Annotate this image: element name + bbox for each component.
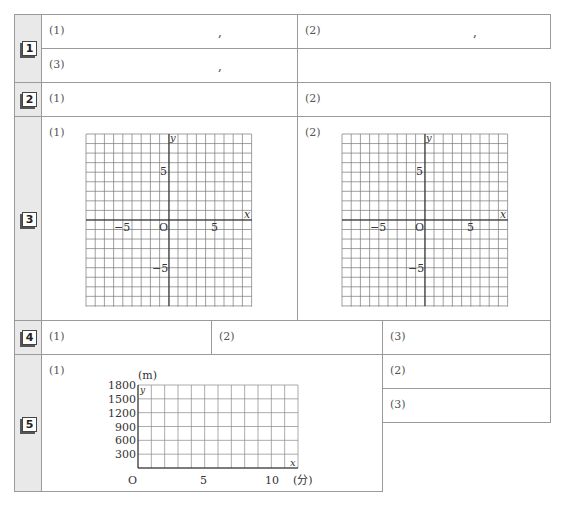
problem-2-badge: 2 [22,92,37,107]
part-label: (2) [305,24,321,37]
answer-1-2[interactable]: (2) , [297,14,551,49]
part-label: (1) [49,126,65,139]
y-tick-label: 600 [115,434,136,447]
x-axis-label: x [500,208,507,221]
tick-y-neg5: −5 [152,262,168,275]
x-axis-label: x [290,457,296,468]
part-label: (2) [390,364,406,377]
tick-y-neg5: −5 [408,262,424,275]
y-tick-label: 1200 [108,407,136,420]
x-tick-5: 5 [200,474,207,487]
answer-2-2[interactable]: (2) [297,82,551,117]
part-label: (1) [49,24,65,37]
part-label: (3) [49,58,65,71]
tick-x-neg5: −5 [114,221,130,234]
x-unit-label: (分) [293,474,313,487]
part-label: (1) [49,364,65,377]
empty-space-1 [297,48,551,83]
y-tick-label: 900 [115,421,136,434]
origin-label: O [128,474,137,487]
answer-3-2[interactable]: (2) y x O −5 5 5 −5 [297,116,551,321]
origin-label: O [415,221,424,234]
problem-5-badge: 5 [22,417,37,432]
y-axis-label: y [425,132,432,143]
separator-comma: , [218,59,222,73]
answer-1-1[interactable]: (1) , [41,14,298,49]
tick-x-pos5: 5 [467,221,474,234]
separator-comma: , [473,25,477,39]
origin-label: O [159,221,168,234]
part-label: (2) [219,330,235,343]
part-label: (3) [390,330,406,343]
tick-y-pos5: 5 [160,165,167,178]
answer-4-1[interactable]: (1) [41,320,212,355]
coordinate-grid-2[interactable]: y x O −5 5 5 −5 [338,129,553,314]
y-tick-label: 1500 [108,393,136,406]
part-label: (2) [305,92,321,105]
answer-5-3[interactable]: (3) [382,388,551,423]
coordinate-grid-1[interactable]: y x O −5 5 5 −5 [82,129,297,314]
y-tick-label: 1800 [108,379,136,392]
x-tick-10: 10 [265,474,279,487]
answer-5-2[interactable]: (2) [382,354,551,389]
answer-2-1[interactable]: (1) [41,82,298,117]
separator-comma: , [218,25,222,39]
part-label: (3) [390,398,406,411]
problem-3-badge: 3 [22,212,37,227]
part-label: (1) [49,92,65,105]
answer-3-1[interactable]: (1) y x O −5 5 5 −5 [41,116,298,321]
answer-5-1[interactable]: (1) (m) y x 180015001200900600300 O 5 10… [41,354,383,492]
part-label: (1) [49,330,65,343]
y-unit-label: (m) [138,369,157,382]
y-axis-label: y [169,132,176,143]
problem-5-label-cell: 5 [14,354,42,492]
y-axis-label: y [139,385,146,395]
tick-x-neg5: −5 [370,221,386,234]
problem-2-label-cell: 2 [14,82,42,117]
problem-1-badge: 1 [22,41,37,56]
tick-y-pos5: 5 [416,165,423,178]
answer-1-3[interactable]: (3) , [41,48,298,83]
distance-time-graph[interactable]: (m) y x 180015001200900600300 O 5 10 (分) [82,363,382,488]
problem-3-label-cell: 3 [14,116,42,321]
answer-4-3[interactable]: (3) [382,320,551,355]
part-label: (2) [305,126,321,139]
problem-1-label-cell: 1 [14,14,42,83]
answer-4-2[interactable]: (2) [211,320,383,355]
problem-4-label-cell: 4 [14,320,42,355]
tick-x-pos5: 5 [211,221,218,234]
problem-4-badge: 4 [22,330,37,345]
y-tick-label: 300 [115,448,136,461]
x-axis-label: x [244,208,251,221]
